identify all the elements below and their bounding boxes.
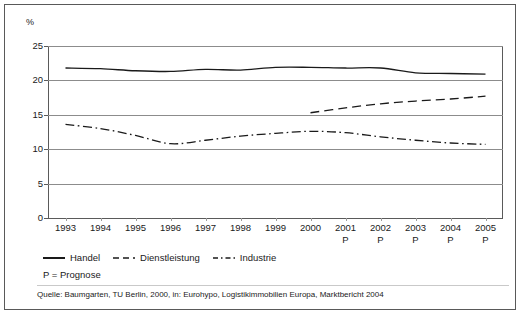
x-tick-mark-2001 <box>346 218 347 221</box>
legend-swatch-dash-dot-icon <box>213 253 235 263</box>
y-tick-label-0: 0 <box>38 213 43 223</box>
x-tick-mark-1995 <box>136 218 137 221</box>
x-tick-label-1999: 1999 <box>265 222 286 233</box>
y-tick-label-25: 25 <box>32 41 43 51</box>
legend-item-handel[interactable]: Handel <box>43 252 100 263</box>
x-tick-label-2002: 2002 <box>370 222 391 233</box>
x-tick-mark-1998 <box>241 218 242 221</box>
series-line-dienstleistung <box>311 96 486 113</box>
series-layer <box>48 46 503 218</box>
x-tick-mark-2000 <box>311 218 312 221</box>
series-line-handel <box>66 67 486 74</box>
y-axis-unit-label: % <box>26 17 34 27</box>
legend-label: Industrie <box>240 252 276 263</box>
y-tick-label-10: 10 <box>32 144 43 154</box>
chart-legend: HandelDienstleistungIndustrie <box>43 252 289 263</box>
x-tick-label-1997: 1997 <box>195 222 216 233</box>
x-tick-forecast-marker-2001: P <box>342 234 348 245</box>
x-tick-label-2001: 2001 <box>335 222 356 233</box>
x-tick-mark-1994 <box>101 218 102 221</box>
x-tick-mark-2004 <box>451 218 452 221</box>
y-tick-label-5: 5 <box>38 179 43 189</box>
x-tick-mark-1996 <box>171 218 172 221</box>
prognose-note: P = Prognose <box>43 269 101 280</box>
legend-item-dienstleistung[interactable]: Dienstleistung <box>113 252 200 263</box>
x-tick-mark-1999 <box>276 218 277 221</box>
x-tick-forecast-marker-2005: P <box>482 234 488 245</box>
x-tick-mark-2003 <box>416 218 417 221</box>
x-tick-label-1993: 1993 <box>55 222 76 233</box>
x-tick-label-1994: 1994 <box>90 222 111 233</box>
legend-label: Handel <box>70 252 100 263</box>
legend-item-industrie[interactable]: Industrie <box>213 252 276 263</box>
x-tick-forecast-marker-2004: P <box>447 234 453 245</box>
y-tick-label-15: 15 <box>32 110 43 120</box>
x-tick-forecast-marker-2002: P <box>377 234 383 245</box>
x-tick-mark-1997 <box>206 218 207 221</box>
legend-swatch-dashed-icon <box>113 253 135 263</box>
x-tick-mark-1993 <box>66 218 67 221</box>
source-note: Quelle: Baumgarten, TU Berlin, 2000, in:… <box>37 290 384 300</box>
legend-label: Dienstleistung <box>140 252 200 263</box>
x-tick-label-2004: 2004 <box>440 222 461 233</box>
legend-swatch-solid-icon <box>43 253 65 263</box>
x-tick-forecast-marker-2003: P <box>412 234 418 245</box>
plot-area: 0510152025 <box>48 46 503 218</box>
x-tick-label-1998: 1998 <box>230 222 251 233</box>
x-tick-label-2003: 2003 <box>405 222 426 233</box>
series-line-industrie <box>66 124 486 144</box>
source-divider <box>37 285 509 286</box>
x-tick-label-1996: 1996 <box>160 222 181 233</box>
x-tick-label-2005: 2005 <box>475 222 496 233</box>
x-tick-label-1995: 1995 <box>125 222 146 233</box>
chart-figure: % 0510152025 199319941995199619971998199… <box>0 0 521 315</box>
x-tick-label-2000: 2000 <box>300 222 321 233</box>
x-tick-mark-2002 <box>381 218 382 221</box>
y-tick-label-20: 20 <box>32 75 43 85</box>
x-tick-mark-2005 <box>486 218 487 221</box>
